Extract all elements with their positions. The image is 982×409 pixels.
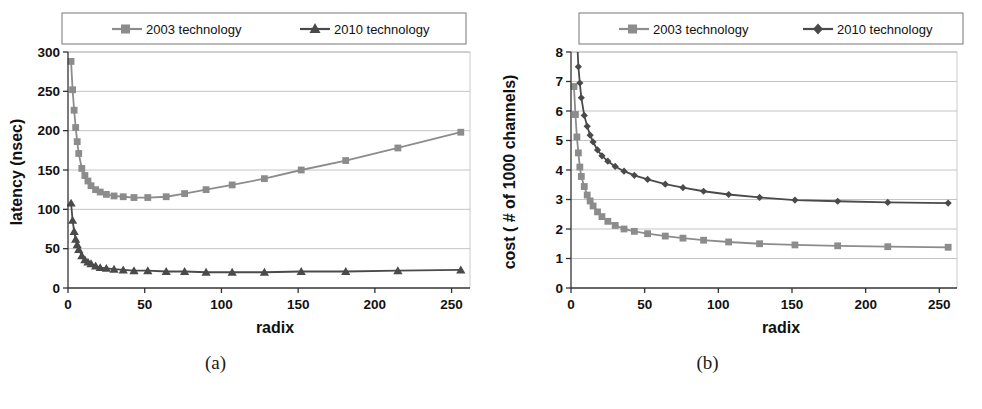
square-marker <box>725 239 732 246</box>
square-marker <box>621 226 628 233</box>
panel-a-caption: (a) <box>0 352 491 374</box>
yaxis-tick-label: 7 <box>555 74 563 89</box>
xaxis-tick-label: 150 <box>287 297 310 312</box>
figure-panel-a: 2003 technology 2010 technology 05010015… <box>0 0 491 409</box>
yaxis-tick-label: 300 <box>37 45 60 60</box>
xaxis-tick-label: 250 <box>440 297 463 312</box>
xaxis-tick-label: 50 <box>137 297 152 312</box>
yaxis-tick-label: 100 <box>37 202 60 217</box>
xaxis-tick-label: 100 <box>707 297 730 312</box>
figure-panel-b: 2003 technology 2010 technology 01234567… <box>491 0 982 409</box>
square-marker <box>792 242 799 249</box>
legend-label-2003: 2003 technology <box>146 22 242 37</box>
yaxis-tick-label: 6 <box>555 104 563 119</box>
square-marker <box>572 111 579 118</box>
square-marker <box>590 203 597 210</box>
panel-b-caption: (b) <box>491 352 982 374</box>
square-marker <box>97 189 104 196</box>
square-marker <box>394 145 401 152</box>
square-marker <box>261 175 268 182</box>
xaxis-tick-label: 200 <box>364 297 387 312</box>
square-marker <box>612 222 619 229</box>
chart-a-wrapper: 2003 technology 2010 technology 05010015… <box>0 0 491 345</box>
square-marker <box>120 193 127 200</box>
legend-label-2010: 2010 technology <box>334 22 430 37</box>
xaxis-tick-label: 0 <box>64 297 72 312</box>
square-marker <box>78 165 85 172</box>
legend-label-2010: 2010 technology <box>837 22 933 37</box>
yaxis-tick-label: 250 <box>37 84 60 99</box>
latency-vs-radix-chart: 2003 technology 2010 technology 05010015… <box>0 0 491 345</box>
square-marker <box>144 194 151 201</box>
square-marker <box>71 107 78 114</box>
square-marker <box>576 164 583 171</box>
xaxis-tick-label: 50 <box>637 297 652 312</box>
square-marker <box>680 235 687 242</box>
legend-label-2003: 2003 technology <box>653 22 749 37</box>
yaxis-tick-label: 0 <box>52 281 60 296</box>
square-marker <box>111 193 118 200</box>
square-marker <box>884 243 891 250</box>
square-marker <box>74 138 81 145</box>
square-marker <box>68 58 75 65</box>
square-marker <box>604 218 611 225</box>
square-marker <box>631 228 638 235</box>
square-marker <box>163 193 170 200</box>
square-marker <box>342 157 349 164</box>
chart-b-legend: 2003 technology 2010 technology <box>579 13 963 44</box>
xaxis-tick-label: 0 <box>567 297 575 312</box>
chart-b-plot-area: 012345678050100150200250 <box>555 0 957 312</box>
square-marker <box>72 124 79 131</box>
chart-b-yaxis-title: cost ( # of 1000 channels) <box>501 75 518 270</box>
square-marker <box>756 240 763 247</box>
chart-a-xaxis-title: radix <box>256 319 294 336</box>
yaxis-tick-label: 5 <box>555 133 563 148</box>
chart-a-legend: 2003 technology 2010 technology <box>62 13 466 44</box>
chart-b-wrapper: 2003 technology 2010 technology 01234567… <box>491 0 982 345</box>
square-marker <box>229 182 236 189</box>
yaxis-tick-label: 2 <box>555 222 563 237</box>
cost-vs-radix-chart: 2003 technology 2010 technology 01234567… <box>491 0 982 345</box>
square-marker <box>203 186 210 193</box>
yaxis-tick-label: 150 <box>37 163 60 178</box>
square-marker <box>131 194 138 201</box>
yaxis-tick-label: 0 <box>555 281 563 296</box>
square-marker <box>69 86 76 93</box>
figure-container: 2003 technology 2010 technology 05010015… <box>0 0 982 409</box>
yaxis-tick-label: 1 <box>555 251 563 266</box>
xaxis-tick-label: 200 <box>854 297 877 312</box>
square-marker <box>581 183 588 190</box>
square-marker <box>575 149 582 156</box>
chart-a-plot-area: 050100150200250300050100150200250 <box>37 45 470 312</box>
square-marker <box>457 129 464 136</box>
square-marker <box>662 233 669 240</box>
square-marker <box>578 173 585 180</box>
yaxis-tick-label: 3 <box>555 192 563 207</box>
square-marker <box>834 242 841 249</box>
square-marker <box>584 192 591 199</box>
yaxis-tick-label: 8 <box>555 45 563 60</box>
xaxis-tick-label: 100 <box>210 297 233 312</box>
square-marker <box>75 150 82 157</box>
yaxis-tick-label: 50 <box>45 241 60 256</box>
yaxis-tick-label: 4 <box>555 163 563 178</box>
square-marker <box>573 134 580 141</box>
square-marker <box>103 191 110 198</box>
chart-b-xaxis-title: radix <box>762 319 800 336</box>
xaxis-tick-label: 250 <box>928 297 951 312</box>
square-marker <box>700 237 707 244</box>
square-marker <box>945 244 952 251</box>
yaxis-tick-label: 200 <box>37 123 60 138</box>
square-marker <box>599 213 606 220</box>
square-marker <box>644 230 651 237</box>
chart-a-yaxis-title: latency (nsec) <box>8 119 25 226</box>
square-marker <box>298 167 305 174</box>
square-marker <box>181 190 188 197</box>
xaxis-tick-label: 150 <box>781 297 804 312</box>
square-marker-icon <box>121 25 130 34</box>
square-marker-icon <box>628 25 637 34</box>
